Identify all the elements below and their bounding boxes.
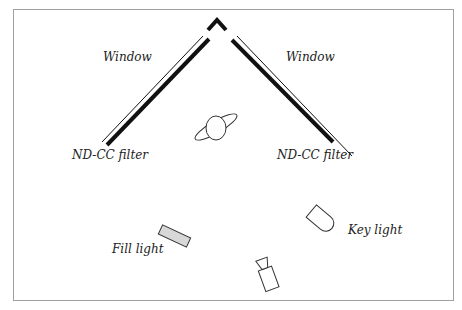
label-fill-light: Fill light xyxy=(112,242,164,256)
label-window-left: Window xyxy=(103,50,152,64)
window-corner xyxy=(208,20,226,30)
key-light-icon xyxy=(306,205,337,235)
label-filter-left: ND-CC filter xyxy=(72,148,148,162)
label-filter-right: ND-CC filter xyxy=(277,148,353,162)
camera-icon xyxy=(255,257,279,292)
subject-icon xyxy=(192,110,240,144)
label-key-light: Key light xyxy=(348,223,402,237)
label-window-right: Window xyxy=(286,50,335,64)
lighting-diagram xyxy=(0,0,462,310)
